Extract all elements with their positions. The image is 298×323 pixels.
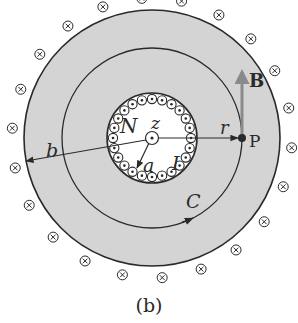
current-into-page-icon xyxy=(196,264,206,274)
current-out-of-page-icon xyxy=(110,123,119,132)
current-into-page-icon xyxy=(16,84,26,94)
current-into-page-icon xyxy=(157,273,167,283)
label-b-radius: b xyxy=(46,139,58,161)
figure-caption: (b) xyxy=(0,294,298,316)
current-into-page-icon xyxy=(270,66,280,76)
label-z: z xyxy=(150,113,161,133)
current-into-page-icon xyxy=(117,270,127,280)
current-out-of-page-icon xyxy=(128,167,137,176)
label-p: P xyxy=(249,131,260,151)
current-into-page-icon xyxy=(287,143,297,153)
current-into-page-icon xyxy=(137,0,147,3)
current-into-page-icon xyxy=(24,200,34,210)
current-out-of-page-icon xyxy=(167,100,176,109)
label-n: N xyxy=(119,114,139,138)
current-into-page-icon xyxy=(231,245,241,255)
label-b-field: B xyxy=(249,70,264,91)
current-into-page-icon xyxy=(80,256,90,266)
current-out-of-page-icon xyxy=(120,161,129,170)
current-out-of-page-icon xyxy=(157,171,166,180)
current-out-of-page-icon xyxy=(185,123,194,132)
current-into-page-icon xyxy=(177,0,187,6)
current-out-of-page-icon xyxy=(137,96,146,105)
current-into-page-icon xyxy=(63,21,73,31)
current-out-of-page-icon xyxy=(157,96,166,105)
point-p xyxy=(238,134,246,142)
current-into-page-icon xyxy=(7,123,17,133)
current-into-page-icon xyxy=(35,49,45,59)
current-into-page-icon xyxy=(98,2,108,12)
current-out-of-page-icon xyxy=(181,153,190,162)
current-into-page-icon xyxy=(214,10,224,20)
label-i: I xyxy=(171,152,180,174)
label-a: a xyxy=(143,154,154,176)
current-into-page-icon xyxy=(48,232,58,242)
label-r: r xyxy=(220,117,230,138)
current-out-of-page-icon xyxy=(181,114,190,123)
current-out-of-page-icon xyxy=(185,143,194,152)
current-out-of-page-icon xyxy=(175,106,184,115)
current-into-page-icon xyxy=(259,217,269,227)
label-c: C xyxy=(186,190,201,212)
current-out-of-page-icon xyxy=(147,94,156,103)
current-into-page-icon xyxy=(246,34,256,44)
current-out-of-page-icon xyxy=(128,100,137,109)
z-axis-dot xyxy=(150,136,153,139)
current-out-of-page-icon xyxy=(108,133,117,142)
current-into-page-icon xyxy=(278,182,288,192)
current-out-of-page-icon xyxy=(114,153,123,162)
current-into-page-icon xyxy=(284,103,294,113)
toroid-field-diagram: N z a I r P B b C xyxy=(0,0,298,323)
current-into-page-icon xyxy=(10,163,20,173)
